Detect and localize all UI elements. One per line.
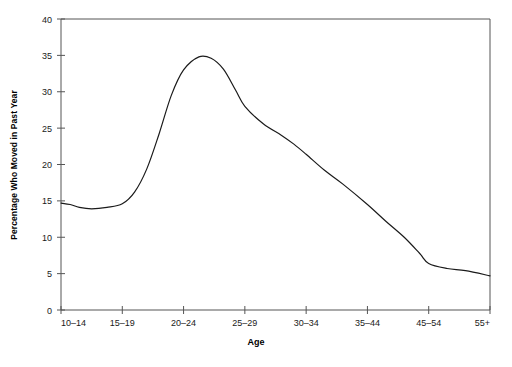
- data-line-series: [61, 56, 490, 276]
- chart-figure: Percentage Who Moved in Past Year 051015…: [0, 0, 512, 367]
- y-tick-label: 35: [42, 51, 52, 61]
- x-axis-title-text: Age: [247, 337, 264, 347]
- y-tick-label: 10: [42, 233, 52, 243]
- x-tick-label: 25–29: [232, 318, 257, 328]
- y-axis-ticks: 0510152025303540: [42, 15, 65, 316]
- x-axis-title: Age: [0, 337, 512, 347]
- y-tick-label: 5: [47, 269, 52, 279]
- y-tick-label: 15: [42, 196, 52, 206]
- x-tick-label: 15–19: [110, 318, 135, 328]
- line-chart-plot: 0510152025303540 10–1415–1920–2425–2930–…: [0, 0, 512, 340]
- y-tick-label: 20: [42, 160, 52, 170]
- x-tick-label: 20–24: [171, 318, 196, 328]
- y-axis-title-text: Percentage Who Moved in Past Year: [9, 90, 19, 240]
- x-tick-label: 45–54: [416, 318, 441, 328]
- y-tick-label: 25: [42, 124, 52, 134]
- y-axis-title: Percentage Who Moved in Past Year: [0, 0, 28, 330]
- y-tick-label: 30: [42, 87, 52, 97]
- x-tick-label: 35–44: [355, 318, 380, 328]
- y-tick-label: 40: [42, 15, 52, 25]
- x-tick-label: 55+: [475, 318, 490, 328]
- x-axis-ticks: 10–1415–1920–2425–2930–3435–4445–5455+: [61, 306, 490, 328]
- y-tick-label: 0: [47, 306, 52, 316]
- x-tick-label: 30–34: [294, 318, 319, 328]
- x-tick-label: 10–14: [61, 318, 86, 328]
